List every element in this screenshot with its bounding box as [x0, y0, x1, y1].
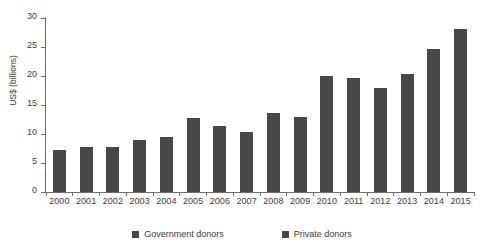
y-axis-tick-label: 5 [32, 157, 37, 166]
legend-swatch-icon [132, 231, 139, 238]
legend-label: Private donors [294, 229, 352, 239]
legend-item: Government donors [132, 229, 224, 239]
y-axis-tick-mark [41, 105, 45, 106]
bar-slot [447, 18, 474, 192]
x-axis-tick-label: 2004 [153, 196, 180, 206]
bar-slot [421, 18, 448, 192]
y-axis-tick-label: 25 [27, 41, 37, 50]
y-axis-tick-mark [41, 18, 45, 19]
bar-slot [367, 18, 394, 192]
x-axis-tick-label: 2001 [73, 196, 100, 206]
x-axis-tick-label: 2012 [367, 196, 394, 206]
bar-slot [233, 18, 260, 192]
legend-item: Private donors [282, 229, 352, 239]
bar [267, 113, 280, 192]
y-axis-tick-label: 15 [27, 99, 37, 108]
bar-slot [287, 18, 314, 192]
x-axis-tick-label: 2007 [233, 196, 260, 206]
x-axis-tick-label: 2009 [287, 196, 314, 206]
bar-slot [46, 18, 73, 192]
bar [240, 132, 253, 192]
bar [80, 147, 93, 192]
y-axis-tick-label: 20 [27, 70, 37, 79]
x-axis-tick-label: 2015 [447, 196, 474, 206]
x-axis-tick-label: 2008 [260, 196, 287, 206]
x-axis-labels: 2000200120022003200420052006200720082009… [46, 196, 474, 206]
y-axis-tick-mark [41, 163, 45, 164]
bar-slot [314, 18, 341, 192]
x-axis-tick-label: 2000 [46, 196, 73, 206]
x-axis-tick-label: 2003 [126, 196, 153, 206]
y-axis-tick-mark [41, 134, 45, 135]
bar [160, 137, 173, 192]
bar-slot [73, 18, 100, 192]
bar [347, 78, 360, 192]
bar [427, 49, 440, 192]
bar [213, 126, 226, 192]
x-axis-tick-label: 2002 [100, 196, 127, 206]
bars-container [46, 18, 474, 192]
y-axis-tick-mark [41, 192, 45, 193]
legend-swatch-icon [282, 231, 289, 238]
x-axis-tick-label: 2013 [394, 196, 421, 206]
x-axis-tick-label: 2014 [421, 196, 448, 206]
y-axis-tick-label: 10 [27, 128, 37, 137]
bar-slot [126, 18, 153, 192]
y-axis-tick-mark [41, 47, 45, 48]
chart-legend: Government donorsPrivate donors [0, 229, 484, 239]
bar [401, 74, 414, 192]
bar-slot [153, 18, 180, 192]
bar-slot [340, 18, 367, 192]
bar [294, 117, 307, 192]
legend-label: Government donors [144, 229, 224, 239]
y-axis-tick-mark [41, 76, 45, 77]
bar-slot [180, 18, 207, 192]
bar-slot [260, 18, 287, 192]
bar [454, 29, 467, 192]
x-axis-tick-label: 2006 [207, 196, 234, 206]
bar-slot [207, 18, 234, 192]
bar-chart: US$ (billions) 302520151050 200020012002… [0, 0, 484, 249]
y-axis-tick-label: 30 [27, 12, 37, 21]
bar-slot [394, 18, 421, 192]
bar [187, 118, 200, 192]
bar [106, 147, 119, 192]
bar [53, 150, 66, 192]
bar [320, 76, 333, 192]
y-axis-title: US$ (billions) [9, 55, 18, 106]
x-axis-tick-label: 2005 [180, 196, 207, 206]
x-axis-tick-label: 2011 [340, 196, 367, 206]
x-axis-tick-label: 2010 [314, 196, 341, 206]
bar [374, 88, 387, 192]
bar [133, 140, 146, 192]
y-axis-tick-label: 0 [32, 186, 37, 195]
bar-slot [100, 18, 127, 192]
